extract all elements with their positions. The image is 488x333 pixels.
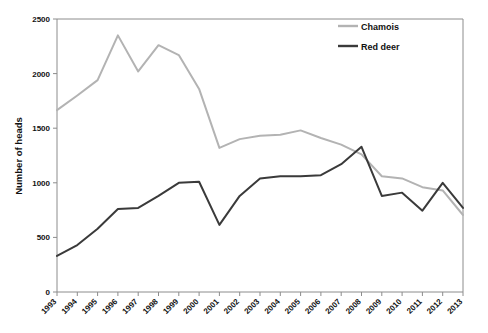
x-tick-label: 1996 <box>100 297 119 316</box>
x-tick-label: 1995 <box>80 297 99 316</box>
x-tick-label: 2000 <box>182 297 201 316</box>
x-tick-label: 1993 <box>39 297 58 316</box>
x-tick-label: 2001 <box>202 297 221 316</box>
plot-background <box>57 19 463 292</box>
y-axis-label: Number of heads <box>13 117 24 195</box>
y-tick-label: 2000 <box>32 70 50 79</box>
x-tick-label: 1997 <box>121 297 140 316</box>
x-tick-label: 2010 <box>385 297 404 316</box>
x-tick-label: 2006 <box>303 297 322 316</box>
line-chart: 05001000150020002500 1993199419951996199… <box>0 0 488 333</box>
x-tick-label: 2004 <box>263 297 282 316</box>
x-tick-label: 1994 <box>60 297 79 316</box>
x-tick-label: 1999 <box>161 297 180 316</box>
x-tick-label: 2003 <box>242 297 261 316</box>
legend-label-red-deer: Red deer <box>361 42 400 52</box>
y-tick-label: 500 <box>37 233 51 242</box>
y-tick-label: 1500 <box>32 124 50 133</box>
x-tick-label: 2005 <box>283 297 302 316</box>
chart-figure: 05001000150020002500 1993199419951996199… <box>0 0 488 333</box>
x-tick-label: 2013 <box>445 297 464 316</box>
y-tick-label: 2500 <box>32 15 50 24</box>
y-tick-label: 0 <box>46 288 51 297</box>
x-tick-label: 2012 <box>425 297 444 316</box>
legend-label-chamois: Chamois <box>361 22 399 32</box>
x-tick-label: 2002 <box>222 297 241 316</box>
x-tick-label: 2011 <box>405 297 424 316</box>
x-tick-label: 1998 <box>141 297 160 316</box>
x-tick-label: 2007 <box>324 297 343 316</box>
x-tick-label: 2008 <box>344 297 363 316</box>
y-tick-label: 1000 <box>32 179 50 188</box>
y-axis: 05001000150020002500 <box>32 15 57 297</box>
x-axis: 1993199419951996199719981999200020012002… <box>39 292 464 316</box>
x-tick-label: 2009 <box>364 297 383 316</box>
